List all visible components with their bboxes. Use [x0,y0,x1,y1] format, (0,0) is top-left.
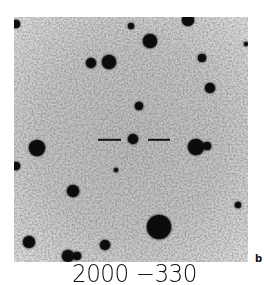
field-name-caption: 2000 −330 [72,260,182,285]
star [135,102,143,110]
star [29,140,45,156]
star [235,202,241,208]
star [188,139,204,155]
star [73,252,81,260]
star [86,58,96,68]
panel-label: b [255,253,262,264]
star-field-photo [14,17,248,262]
star [205,83,215,93]
star [244,42,248,46]
star [147,215,171,239]
marker-dash-left [98,139,121,141]
star [114,168,118,172]
star [128,23,134,29]
star [203,142,211,150]
star [100,240,110,250]
star [102,55,116,69]
star [143,34,157,48]
star [198,54,206,62]
target-object [128,134,138,144]
star [23,236,35,248]
star [67,185,79,197]
marker-dash-right [148,139,170,141]
